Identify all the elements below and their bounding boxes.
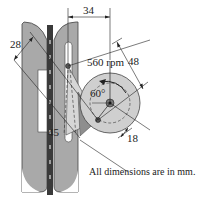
dim-18-label: 18 bbox=[127, 132, 139, 144]
left-plate-window bbox=[38, 70, 47, 132]
dim-34-arrow-right bbox=[105, 16, 110, 19]
dim-45-label: 45 bbox=[48, 126, 60, 138]
mechanism-drawing: 34 48 28 45 18 560 rpm 60° All dimension… bbox=[0, 0, 212, 207]
dim-48-label: 48 bbox=[128, 55, 140, 67]
diagram-canvas: 34 48 28 45 18 560 rpm 60° All dimension… bbox=[0, 0, 212, 207]
dim-28-label: 28 bbox=[10, 38, 22, 50]
dim-48-arrow-top bbox=[117, 42, 121, 48]
speed-label: 560 rpm bbox=[87, 56, 124, 68]
units-note: All dimensions are in mm. bbox=[89, 166, 195, 177]
angle-label: 60° bbox=[90, 87, 105, 99]
dim-34-arrow-left bbox=[68, 16, 73, 19]
dim-48-ext-top bbox=[112, 38, 122, 44]
dim-34-label: 34 bbox=[83, 4, 95, 16]
center-rail bbox=[47, 25, 53, 195]
